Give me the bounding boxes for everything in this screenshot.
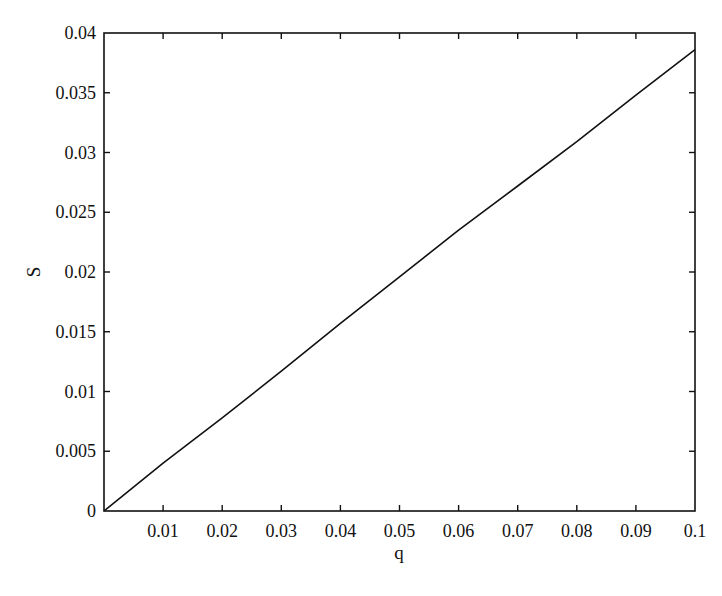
plot-frame: [104, 33, 695, 511]
x-axis-label: q: [394, 542, 404, 563]
x-tick-label: 0.07: [502, 521, 534, 541]
y-tick-label: 0.04: [65, 23, 97, 43]
plot-border: [104, 33, 695, 511]
series-line: [104, 50, 695, 511]
x-tick-label: 0.1: [684, 521, 707, 541]
y-axis-ticks: 00.0050.010.0150.020.0250.030.0350.04: [56, 23, 696, 521]
x-tick-label: 0.09: [620, 521, 652, 541]
x-tick-label: 0.08: [561, 521, 593, 541]
y-tick-label: 0: [87, 501, 96, 521]
data-series: [104, 50, 695, 511]
line-chart: 0.010.020.030.040.050.060.070.080.090.1 …: [0, 0, 722, 596]
y-tick-label: 0.01: [65, 382, 97, 402]
y-tick-label: 0.03: [65, 143, 97, 163]
y-tick-label: 0.02: [65, 262, 97, 282]
x-tick-label: 0.01: [147, 521, 179, 541]
x-tick-label: 0.02: [206, 521, 238, 541]
y-tick-label: 0.005: [56, 441, 97, 461]
y-axis-label: S: [23, 267, 44, 278]
x-axis-ticks: 0.010.020.030.040.050.060.070.080.090.1: [147, 33, 706, 541]
x-tick-label: 0.04: [325, 521, 357, 541]
x-tick-label: 0.03: [266, 521, 298, 541]
y-tick-label: 0.025: [56, 202, 97, 222]
x-tick-label: 0.05: [384, 521, 416, 541]
x-tick-label: 0.06: [443, 521, 475, 541]
y-tick-label: 0.015: [56, 322, 97, 342]
y-tick-label: 0.035: [56, 83, 97, 103]
